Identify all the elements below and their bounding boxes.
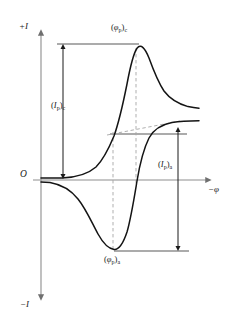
curve-group [41,46,199,249]
anodic-peak-current-label: (Ip)a [158,160,172,170]
y-axis-negative-label: −I [20,300,29,309]
cathodic-peak-potential-label: (φp)c [111,23,127,33]
dashed-group [107,48,180,249]
cathodic-peak-potential-sub2: c [124,27,127,33]
guide-line-group [57,44,189,251]
anodic-peak-potential-label: (φp)a [104,255,120,265]
cathodic-peak-current-label: (Ip)c [51,101,65,111]
y-axis-positive-label: +I [19,22,28,31]
curve-anodic-reverse-sweep [41,121,199,250]
x-axis-label: −φ [208,185,219,194]
origin-label: O [20,170,27,180]
cyclic-voltammogram-figure: +I −I O −φ (φp)c (φp)a (Ip)c (Ip)a [0,0,240,327]
measure-bar-group [63,46,178,249]
curve-cathodic-forward-sweep [41,46,199,178]
anodic-peak-current-sub2: a [170,164,173,170]
x-axis-label-symbol: φ [214,184,219,194]
anodic-peak-potential-sub2: a [117,259,120,265]
plot-canvas [0,0,240,327]
cathodic-peak-potential-sub1: p [119,27,122,33]
anodic-peak-potential-sub1: p [112,259,115,265]
anodic-peak-current-sub1: p [164,164,167,170]
cathodic-peak-current-sub2: c [63,105,66,111]
axis-group [33,32,209,298]
cathodic-peak-current-sub1: p [57,105,60,111]
